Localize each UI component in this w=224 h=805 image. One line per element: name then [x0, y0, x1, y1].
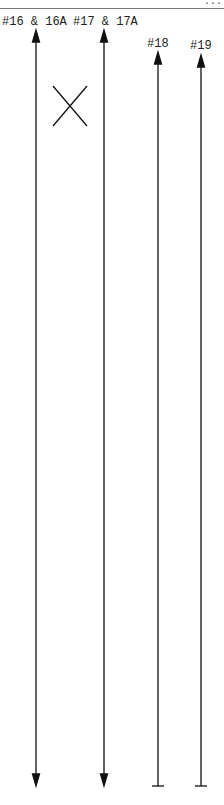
dimension-line-19: [195, 55, 207, 786]
arrow-up-icon: [155, 52, 162, 64]
x-marker-icon: [53, 86, 87, 126]
diagram-canvas: [0, 0, 224, 805]
arrow-up-icon: [198, 55, 205, 67]
double-arrow-17: [101, 30, 108, 786]
double-arrow-16: [33, 30, 40, 786]
arrow-down-icon: [101, 774, 108, 786]
arrow-up-icon: [101, 30, 108, 42]
arrow-up-icon: [33, 30, 40, 42]
arrow-down-icon: [33, 774, 40, 786]
dimension-line-18: [152, 52, 164, 786]
